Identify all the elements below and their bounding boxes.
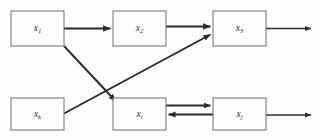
node-x2[interactable]: x2: [113, 11, 166, 46]
edge-layer: [64, 27, 311, 116]
node-xj[interactable]: xj: [213, 98, 266, 130]
diagram-svg: x1 x2 x3 xk xi xj: [0, 0, 319, 138]
diagram-canvas: x1 x2 x3 xk xi xj: [0, 0, 319, 138]
node-layer: x1 x2 x3 xk xi xj: [11, 11, 266, 130]
node-xk[interactable]: xk: [11, 98, 64, 130]
node-x1[interactable]: x1: [11, 11, 64, 46]
node-x3[interactable]: x3: [213, 11, 266, 46]
node-xi[interactable]: xi: [113, 98, 166, 130]
edge-x1-to-xi: [64, 46, 116, 101]
